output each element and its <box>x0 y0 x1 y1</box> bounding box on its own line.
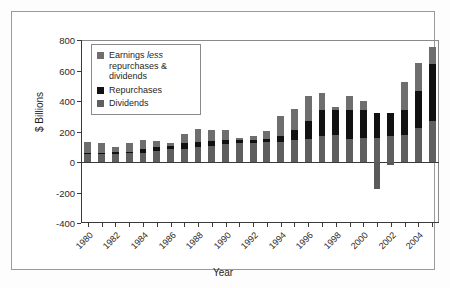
bar-segment-earnings <box>208 130 215 141</box>
bar-segment-dividends <box>374 138 381 162</box>
bar-segment-dividends <box>360 138 367 162</box>
bar-segment-earnings <box>291 109 298 131</box>
bar <box>277 40 284 223</box>
bar-segment-repurchases <box>250 140 257 143</box>
x-axis-tick <box>239 223 240 227</box>
bar-segment-earnings <box>277 116 284 136</box>
bar-segment-dividends <box>98 154 105 162</box>
x-axis-label: 1986 <box>156 230 177 251</box>
bar-segment-repurchases <box>153 147 160 151</box>
bar-segment-dividends <box>291 140 298 162</box>
y-axis-tick <box>77 193 81 194</box>
bar-segment-repurchases <box>429 64 436 120</box>
x-axis-tick <box>143 223 144 227</box>
x-axis-tick <box>198 223 199 227</box>
legend-item-repurchases: Repurchases <box>97 85 194 96</box>
x-axis-tick <box>363 223 364 227</box>
bar-segment-repurchases <box>305 121 312 139</box>
bar-segment-earnings-negative <box>374 162 381 189</box>
x-axis-tick <box>212 223 213 227</box>
bar-segment-dividends <box>263 142 270 162</box>
x-axis-tick <box>391 223 392 227</box>
legend-label: Repurchases <box>109 85 162 96</box>
bar <box>332 40 339 223</box>
bar-segment-earnings <box>332 107 339 110</box>
legend-item-earnings-less-repurchases-dividends: Earnings less repurchases & dividends <box>97 50 194 82</box>
y-axis-label: 0 <box>70 157 75 168</box>
legend-label: Earnings less repurchases & dividends <box>109 50 194 82</box>
bar-segment-dividends <box>250 143 257 162</box>
bar-segment-dividends <box>84 154 91 162</box>
x-axis-tick <box>432 223 433 227</box>
legend-swatch-icon <box>97 100 104 107</box>
bar <box>387 40 394 223</box>
bar-segment-earnings <box>360 101 367 110</box>
bar <box>401 40 408 223</box>
bar <box>319 40 326 223</box>
y-axis-label: 800 <box>59 35 75 46</box>
bar-segment-earnings-negative <box>387 162 394 165</box>
bar <box>250 40 257 223</box>
bar-segment-dividends <box>429 121 436 162</box>
bar-segment-earnings <box>401 82 408 109</box>
x-axis-label: 1984 <box>129 230 150 251</box>
y-axis-label: 200 <box>59 126 75 137</box>
bar-segment-repurchases <box>112 152 119 154</box>
x-axis-tick <box>308 223 309 227</box>
chart-legend: Earnings less repurchases & dividendsRep… <box>91 44 201 115</box>
y-axis-tick <box>77 40 81 41</box>
x-axis-tick <box>184 223 185 227</box>
bar-segment-earnings <box>236 138 243 140</box>
bar-segment-repurchases <box>319 110 326 136</box>
y-axis-label: 400 <box>59 96 75 107</box>
bar-segment-repurchases <box>208 141 215 146</box>
bar-segment-repurchases <box>84 153 91 154</box>
bar-segment-repurchases <box>374 113 381 138</box>
bar-segment-dividends <box>208 146 215 162</box>
bar-segment-repurchases <box>126 152 133 154</box>
bar-segment-earnings <box>195 129 202 142</box>
bar-segment-dividends <box>140 153 147 162</box>
bar-segment-repurchases <box>181 143 188 148</box>
bar-segment-earnings <box>305 96 312 121</box>
chart-figure: $ Billions Year 8006004002000-200-400 19… <box>0 0 450 288</box>
bar-segment-dividends <box>387 136 394 162</box>
bar-segment-repurchases <box>195 142 202 147</box>
bar-segment-earnings <box>112 147 119 152</box>
legend-swatch-icon <box>97 52 104 59</box>
x-axis-tick <box>129 223 130 227</box>
bar-segment-earnings <box>140 140 147 149</box>
bar-segment-dividends <box>346 139 353 162</box>
x-axis-label: 2000 <box>349 230 370 251</box>
bar-segment-earnings <box>429 47 436 64</box>
y-axis-tick <box>77 101 81 102</box>
x-axis-tick <box>88 223 89 227</box>
x-axis-tick <box>405 223 406 227</box>
bar-segment-repurchases <box>222 140 229 144</box>
bar-segment-earnings <box>181 134 188 143</box>
bar <box>305 40 312 223</box>
bar-segment-earnings <box>84 142 91 153</box>
bar-segment-repurchases <box>140 149 147 152</box>
x-axis-tick <box>171 223 172 227</box>
bar-segment-repurchases <box>98 153 105 155</box>
bar-segment-repurchases <box>401 110 408 135</box>
bar-segment-repurchases <box>387 113 394 136</box>
bar-segment-earnings <box>222 130 229 139</box>
bar <box>346 40 353 223</box>
y-axis-label: -200 <box>56 187 75 198</box>
x-axis-tick <box>226 223 227 227</box>
bar-segment-dividends <box>332 135 339 162</box>
bar-segment-repurchases <box>360 110 367 138</box>
bar-segment-dividends <box>126 153 133 162</box>
bar-segment-dividends <box>222 144 229 162</box>
bar <box>222 40 229 223</box>
x-axis-tick <box>377 223 378 227</box>
x-axis-tick <box>102 223 103 227</box>
figure-frame: $ Billions Year 8006004002000-200-400 19… <box>11 11 435 270</box>
bar-segment-repurchases <box>277 136 284 142</box>
x-axis-label: 1982 <box>101 230 122 251</box>
bar <box>208 40 215 223</box>
x-axis-tick <box>418 223 419 227</box>
x-axis-tick <box>294 223 295 227</box>
